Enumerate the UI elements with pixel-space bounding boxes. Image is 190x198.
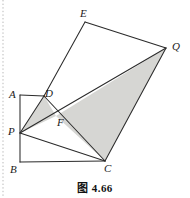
geometry-diagram	[0, 0, 190, 198]
figure-caption: 图 4.66	[0, 179, 190, 195]
segment-bc	[20, 161, 105, 162]
vertex-label-e: E	[80, 8, 87, 19]
vertex-label-d: D	[45, 88, 53, 99]
vertex-label-a: A	[9, 89, 16, 100]
segment-eq	[85, 22, 166, 48]
vertex-label-f: F	[57, 117, 64, 128]
vertex-label-q: Q	[172, 41, 180, 52]
shaded-triangle-fqc	[56, 48, 166, 161]
segment-de	[44, 22, 85, 96]
vertex-label-b: B	[10, 164, 17, 175]
vertex-label-c: C	[104, 163, 111, 174]
vertex-label-p: P	[8, 126, 15, 137]
shaded-triangle-pdf	[20, 96, 56, 133]
segment-ad	[20, 95, 44, 96]
figure-container: A B C D E F P Q 图 4.66	[0, 0, 190, 198]
